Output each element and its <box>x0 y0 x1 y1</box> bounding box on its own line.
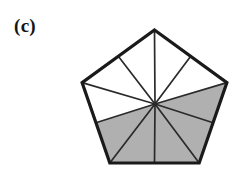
spoke-to-top <box>155 30 156 104</box>
figure-panel: (c) <box>0 0 243 180</box>
spoke-to-bottom-mid <box>155 104 156 163</box>
pentagon-diagram <box>0 0 243 180</box>
